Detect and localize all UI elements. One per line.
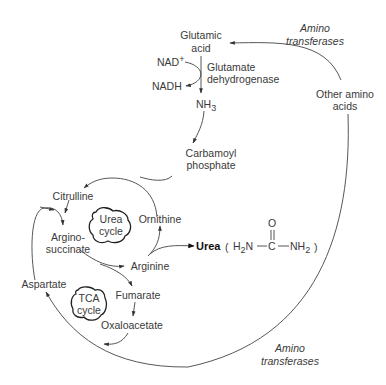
arrow-oxaloacetate-curve xyxy=(104,333,128,344)
label-ornithine: Ornithine xyxy=(139,213,182,225)
formula-oxygen: O xyxy=(268,217,276,229)
label-other-amino-1: Other amino xyxy=(316,88,374,100)
paren-left: ( xyxy=(225,241,229,253)
formula-h2n: H2N xyxy=(233,240,253,255)
diagram-svg: Glutamic acid NAD+ NADH Glutamate dehydr… xyxy=(0,0,386,385)
label-glutamic-line1: Glutamic xyxy=(180,29,221,41)
label-urea-cycle-1: Urea xyxy=(100,213,123,225)
formula-carbon: C xyxy=(268,240,276,252)
label-transferases-top-1: Amino xyxy=(299,22,330,34)
label-nadh: NADH xyxy=(152,80,182,92)
formula-nh2: NH2 xyxy=(290,240,310,255)
arrow-fumarate-to-oxaloacetate xyxy=(133,302,135,316)
label-transferases-bottom-2: transferases xyxy=(261,355,320,367)
label-citrulline: Citrulline xyxy=(53,190,94,202)
label-glutamate-dehydrogenase-2: dehydrogenase xyxy=(207,73,280,85)
label-tca-cycle-2: cycle xyxy=(77,304,101,316)
arrow-nh3-to-carbamoyl xyxy=(193,111,204,143)
label-transferases-top-2: transferases xyxy=(286,35,345,47)
arrow-arginine-to-urea xyxy=(150,246,194,254)
label-urea-cycle-2: cycle xyxy=(99,225,123,237)
label-aspartate: Aspartate xyxy=(22,278,67,290)
label-tca-cycle-1: TCA xyxy=(79,292,100,304)
urea-formula: ( H2N C O NH2 ) xyxy=(225,217,318,255)
label-nad: NAD+ xyxy=(157,54,184,68)
arrow-nad-to-nadh xyxy=(185,62,201,86)
label-oxaloacetate: Oxaloacetate xyxy=(101,319,163,331)
label-other-amino-2: acids xyxy=(333,100,358,112)
label-glutamate-dehydrogenase-1: Glutamate xyxy=(207,61,256,73)
paren-right: ) xyxy=(314,241,318,253)
label-arginine: Arginine xyxy=(131,260,170,272)
arrow-carbamoyl-into-cycle xyxy=(140,176,172,180)
label-arginosuccinate-1: Argino- xyxy=(51,231,85,243)
label-transferases-bottom-1: Amino xyxy=(274,342,305,354)
urea-cycle-diagram: Glutamic acid NAD+ NADH Glutamate dehydr… xyxy=(0,0,386,385)
label-nh3: NH3 xyxy=(196,98,216,113)
label-carbamoyl-1: Carbamoyl xyxy=(186,147,237,159)
label-fumarate: Fumarate xyxy=(116,289,161,301)
arrow-arginosuccinate-to-fumarate xyxy=(100,264,132,286)
label-urea: Urea xyxy=(196,240,221,252)
label-glutamic-line2: acid xyxy=(191,42,210,54)
label-carbamoyl-2: phosphate xyxy=(186,159,235,171)
label-arginosuccinate-2: succinate xyxy=(46,243,91,255)
